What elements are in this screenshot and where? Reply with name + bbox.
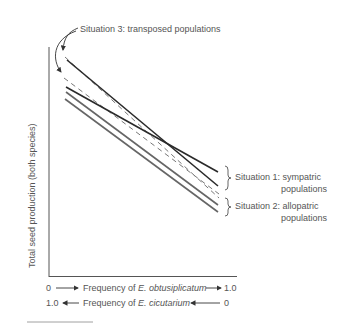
- y-axis-label: Total seed production (both species): [27, 123, 37, 268]
- transposed-line-lower: [64, 78, 219, 194]
- x-row1-left-value: 0: [46, 283, 51, 294]
- allopatric-line-lower: [65, 99, 218, 212]
- sympatric-line-steep: [67, 60, 218, 186]
- sympatric-line-shallow: [66, 87, 218, 172]
- x-row2-left-value: 1.0: [46, 298, 59, 309]
- situation3-label: Situation 3: transposed populations: [80, 24, 221, 35]
- x-row1-right-value: 1.0: [224, 283, 237, 294]
- situation1-label: Situation 1: sympatric: [235, 172, 321, 183]
- situation2-label: Situation 2: allopatric: [235, 201, 319, 212]
- allopatric-line-upper: [66, 92, 218, 205]
- situation2-brace: [225, 198, 231, 216]
- diagram-canvas: [0, 0, 350, 327]
- situation2-label-cont: populations: [281, 213, 327, 224]
- situation1-label-cont: populations: [281, 184, 327, 195]
- x-row2-right-value: 0: [224, 298, 229, 309]
- x-row1-label: Frequency of E. obtusiplicatum: [83, 283, 207, 294]
- situation1-brace: [225, 166, 231, 190]
- x-row2-label: Frequency of E. cicutarium: [83, 298, 190, 309]
